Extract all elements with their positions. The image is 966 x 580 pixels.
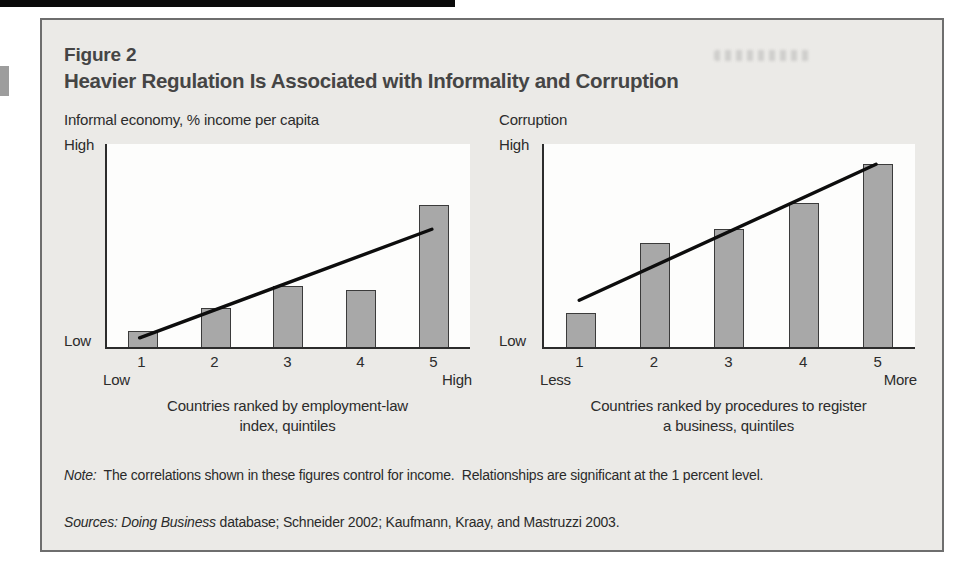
x-tick-label: 4	[788, 353, 818, 370]
plot-area	[105, 144, 470, 349]
x-tick-label: 3	[713, 353, 743, 370]
x-axis-caption-line1: Countries ranked by employment-law	[105, 396, 470, 416]
note-text-prefix	[96, 467, 103, 483]
x-tick-label: 1	[564, 353, 594, 370]
figure-title: Heavier Regulation Is Associated with In…	[64, 69, 679, 93]
x-range-labels: Low High	[103, 371, 472, 389]
figure-note: Note: The correlations shown in these fi…	[64, 467, 920, 483]
x-axis-caption: Countries ranked by employment-law index…	[105, 396, 470, 436]
x-axis-caption-line1: Countries ranked by procedures to regist…	[542, 396, 915, 416]
figure-panel: Figure 2 Heavier Regulation Is Associate…	[40, 18, 944, 552]
page-margin-tab	[0, 66, 9, 96]
x-tick-label: 2	[200, 353, 230, 370]
x-range-labels: Less More	[540, 371, 917, 389]
plot-area	[542, 144, 915, 349]
chart-informal-economy: Informal economy, % income per capita Hi…	[64, 111, 472, 436]
y-axis-label-high: High	[64, 136, 102, 153]
x-axis-caption-line2: a business, quintiles	[542, 416, 915, 436]
figure-sources: Sources: Doing Business database; Schnei…	[64, 514, 920, 530]
x-range-left: Low	[103, 371, 130, 389]
y-axis-label-low: Low	[64, 332, 102, 349]
scan-edge-artifact	[0, 0, 455, 7]
chart-corruption: Corruption High Low 12345 Less More Coun…	[499, 111, 917, 436]
x-tick-label: 2	[639, 353, 669, 370]
chart-y-axis-title: Corruption	[499, 111, 917, 129]
scan-bleed-artifact	[714, 50, 809, 61]
x-range-right: More	[884, 371, 917, 389]
x-tick-label: 5	[419, 353, 449, 370]
x-tick-label: 3	[273, 353, 303, 370]
x-axis-caption-line2: index, quintiles	[105, 416, 470, 436]
x-axis-caption: Countries ranked by procedures to regist…	[542, 396, 915, 436]
y-axis-label-low: Low	[499, 332, 537, 349]
x-range-left: Less	[540, 371, 571, 389]
sources-text: database; Schneider 2002; Kaufmann, Kraa…	[220, 514, 620, 530]
sources-label: Sources:	[64, 514, 118, 530]
note-text: The correlations shown in these figures …	[104, 467, 764, 483]
chart-y-axis-title: Informal economy, % income per capita	[64, 111, 472, 129]
x-ticks: 12345	[542, 353, 915, 370]
x-tick-label: 5	[863, 353, 893, 370]
x-ticks: 12345	[105, 353, 470, 370]
trend-line	[107, 144, 470, 347]
note-label: Note:	[64, 467, 96, 483]
trend-line	[544, 144, 915, 347]
figure-number: Figure 2	[64, 44, 136, 66]
x-tick-label: 4	[346, 353, 376, 370]
x-tick-label: 1	[127, 353, 157, 370]
sources-work-title: Doing Business	[121, 514, 215, 530]
x-range-right: High	[442, 371, 472, 389]
y-axis-label-high: High	[499, 136, 537, 153]
